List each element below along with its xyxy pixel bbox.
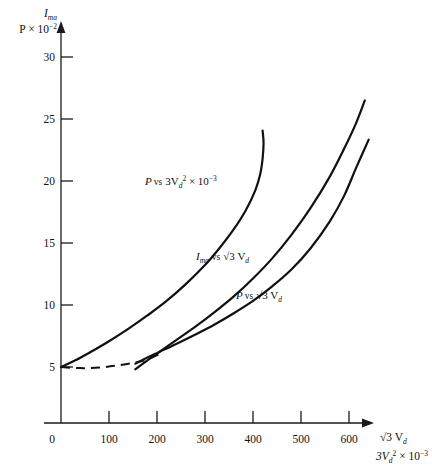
annotation-p-vs-3vd2: Pvs3Vd2 × 10−3 bbox=[144, 174, 217, 190]
y-axis-title: Ima P × 10−2 bbox=[19, 7, 57, 35]
y-tick-label-10: 10 bbox=[44, 299, 56, 311]
x-axis-title-line2-tail: × 10 bbox=[396, 450, 420, 462]
x-tick-label-100: 100 bbox=[100, 433, 118, 445]
y-tick-label-25: 25 bbox=[44, 113, 56, 125]
curve-ima-vs-sqrt3vd bbox=[135, 100, 364, 369]
y-tick-label-5: 5 bbox=[49, 361, 55, 373]
y-axis-title-line1-sub: ma bbox=[48, 13, 57, 22]
x-tick-label-600: 600 bbox=[340, 433, 358, 445]
x-tick-marks bbox=[109, 411, 349, 423]
svg-text:√3 Vd: √3 Vd bbox=[380, 431, 407, 446]
chart-curves bbox=[61, 100, 369, 369]
x-axis-arrow bbox=[362, 419, 374, 428]
annotation-p-vs-sqrt3vd: Pvs√3 Vd bbox=[235, 289, 282, 304]
annotation-ima-vs-sqrt3vd: Imavs√3 Vd bbox=[195, 250, 249, 265]
y-tick-label-15: 15 bbox=[44, 237, 56, 249]
y-axis-arrow bbox=[57, 21, 66, 33]
chart-svg: 5 10 15 20 25 30 0 100 200 300 400 500 6… bbox=[0, 0, 432, 470]
x-tick-label-0: 0 bbox=[49, 433, 55, 445]
y-tick-label-30: 30 bbox=[44, 51, 56, 63]
svg-text:3Vd2 × 10−3: 3Vd2 × 10−3 bbox=[375, 449, 428, 465]
curve-p-vs-3vd2 bbox=[61, 131, 264, 367]
y-axis-title-line2-exp: −2 bbox=[49, 22, 57, 31]
x-tick-label-300: 300 bbox=[196, 433, 214, 445]
svg-text:P × 10−2: P × 10−2 bbox=[19, 22, 57, 35]
svg-text:Ima: Ima bbox=[43, 7, 57, 22]
y-tick-labels: 5 10 15 20 25 30 bbox=[44, 51, 56, 373]
x-tick-labels: 0 100 200 300 400 500 600 bbox=[49, 433, 358, 445]
x-axis bbox=[44, 419, 374, 428]
x-tick-label-200: 200 bbox=[148, 433, 166, 445]
x-axis-title-line2-exp: −3 bbox=[420, 449, 428, 458]
x-axis-title: √3 Vd 3Vd2 × 10−3 bbox=[375, 431, 428, 465]
x-tick-label-400: 400 bbox=[244, 433, 262, 445]
y-axis-title-line2: P × 10 bbox=[19, 23, 49, 35]
y-tick-marks bbox=[61, 57, 73, 367]
y-axis bbox=[57, 21, 66, 423]
x-axis-title-line1-sub: d bbox=[403, 437, 407, 446]
x-axis-title-line1: √3 V bbox=[380, 431, 404, 443]
chart-figure: 5 10 15 20 25 30 0 100 200 300 400 500 6… bbox=[0, 0, 432, 470]
x-tick-label-500: 500 bbox=[292, 433, 310, 445]
curve-annotations: Pvs3Vd2 × 10−3 Imavs√3 Vd Pvs√3 Vd bbox=[144, 174, 282, 304]
y-tick-label-20: 20 bbox=[44, 175, 56, 187]
curve-p-vs-sqrt3vd bbox=[135, 140, 368, 364]
